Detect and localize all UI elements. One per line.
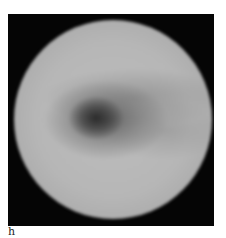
micrograph-frame [8,14,214,226]
panel-label: h [8,226,15,238]
circular-disc-image [14,20,212,219]
